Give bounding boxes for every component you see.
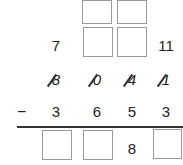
subtrahend-digit-3: 5 [120,103,144,121]
answer-box-col2[interactable] [83,130,113,160]
sum-line [17,126,183,128]
carry-box-col2-top[interactable] [82,0,112,24]
subtrahend-digit-2: 6 [85,103,109,121]
minus-sign: − [17,103,26,121]
carry-digit-col1: 7 [44,37,68,55]
carry-box-col3-top[interactable] [117,0,147,24]
minuend-digit-1: 8 [44,71,68,89]
subtrahend-digit-4: 3 [154,103,178,121]
answer-digit-col3: 8 [120,140,144,158]
answer-box-col4[interactable] [153,129,182,159]
carry-box-col2[interactable] [83,27,113,57]
answer-box-col1[interactable] [42,130,72,160]
carry-box-col3[interactable] [117,27,147,57]
minuend-digit-3: 4 [120,71,144,89]
subtrahend-digit-1: 3 [44,103,68,121]
minuend-digit-2: 0 [85,71,109,89]
minuend-digit-4: 1 [154,71,178,89]
carry-digit-col4: 11 [154,37,178,55]
